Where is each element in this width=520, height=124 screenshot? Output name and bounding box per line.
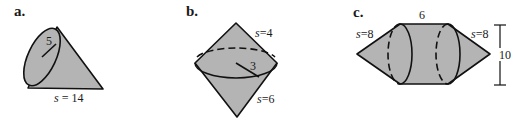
double-cone-bottom-slant-label: s=6 xyxy=(257,92,274,106)
cone-a-radius-label: 5 xyxy=(46,34,52,48)
slant-eq: = xyxy=(59,91,72,105)
slant-val: 8 xyxy=(367,27,373,41)
height-label: 10 xyxy=(499,48,511,62)
figure-a-label: a. xyxy=(14,3,26,19)
figure-a: a. 5 s = 14 xyxy=(14,3,103,105)
slant-val: 6 xyxy=(268,92,274,106)
cylinder-length-label: 6 xyxy=(419,8,425,22)
figure-c: c. 6 s=8 s=8 10 xyxy=(353,4,516,85)
cone-a-slant-label: s = 14 xyxy=(54,91,83,105)
double-cone-radius-label: 3 xyxy=(250,59,256,73)
double-cone-top-slant-label: s=4 xyxy=(255,26,272,40)
solids-diagram: a. 5 s = 14 b. 3 s=4 s=6 c. 6 xyxy=(0,0,520,124)
figure-b: b. 3 s=4 s=6 xyxy=(186,3,277,117)
figure-c-label: c. xyxy=(353,4,364,20)
left-cone-slant-label: s=8 xyxy=(356,27,373,41)
figure-b-label: b. xyxy=(186,3,198,19)
slant-val: 4 xyxy=(266,26,272,40)
slant-val: 8 xyxy=(482,27,488,41)
right-cone-slant-label: s=8 xyxy=(471,27,488,41)
slant-val: 14 xyxy=(71,91,83,105)
